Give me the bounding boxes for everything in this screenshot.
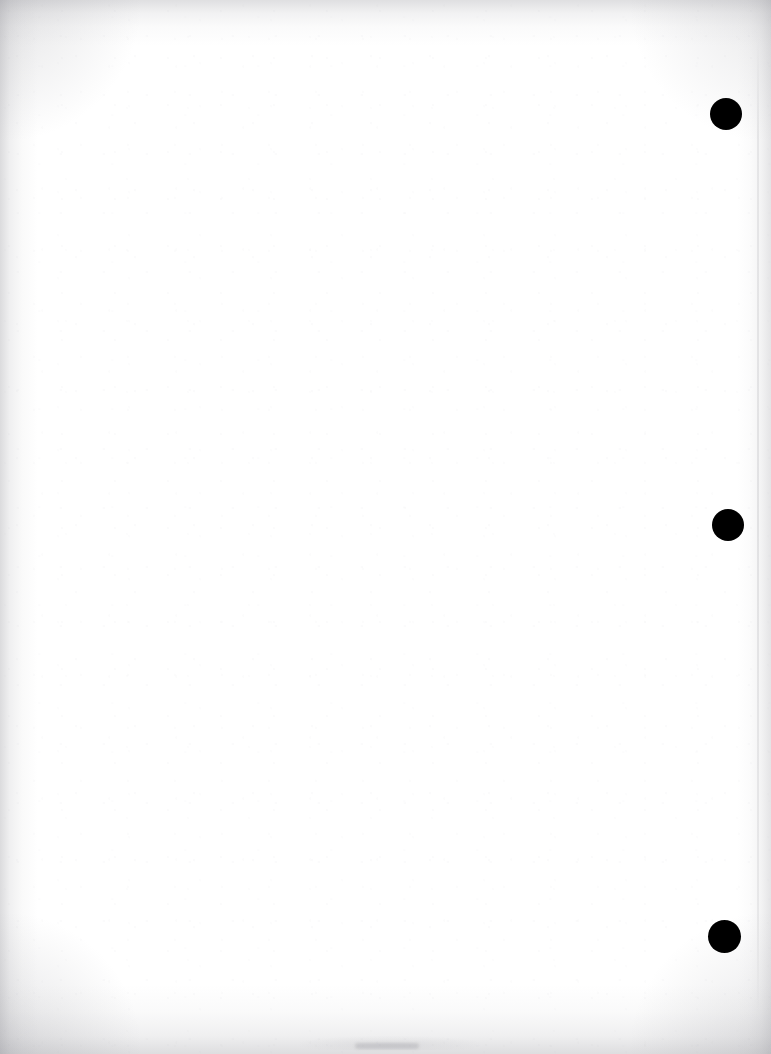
registration-mark-3 bbox=[708, 920, 741, 953]
scanned-page bbox=[0, 0, 771, 1054]
paper-background bbox=[0, 0, 771, 1054]
registration-mark-1 bbox=[710, 98, 742, 130]
registration-mark-2 bbox=[712, 509, 744, 541]
